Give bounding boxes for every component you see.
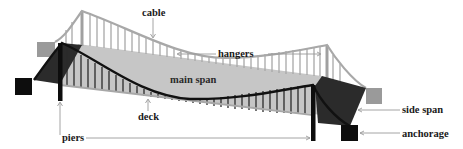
- rear-right-anchor-block: [366, 88, 382, 104]
- label-side-span: side span: [402, 104, 443, 115]
- label-hangers: hangers: [218, 48, 254, 59]
- suspension-bridge-diagram: cable hangers main span deck piers side …: [0, 0, 463, 149]
- label-cable: cable: [142, 7, 166, 18]
- label-deck: deck: [138, 111, 159, 122]
- label-piers: piers: [62, 132, 84, 143]
- front-right-pier: [311, 85, 316, 141]
- label-anchorage: anchorage: [402, 128, 449, 139]
- label-main-span: main span: [170, 74, 217, 85]
- left-anchorage: [15, 78, 32, 95]
- front-left-pier: [58, 43, 63, 101]
- right-anchorage: [341, 125, 358, 141]
